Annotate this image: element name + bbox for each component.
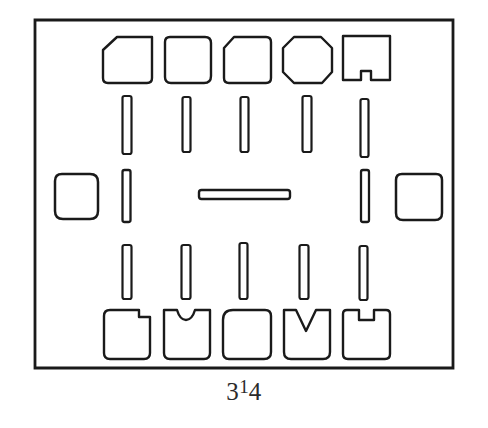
caption-raised-digit: 1: [239, 376, 249, 397]
bar-upper-2: [183, 97, 191, 152]
slab-top-1: [103, 37, 152, 83]
slab-top-2: [165, 37, 211, 83]
bar-mid-center: [199, 190, 290, 199]
slab-top-5: [343, 36, 390, 80]
slab-bottom-3: [223, 310, 271, 359]
bar-upper-1: [123, 96, 132, 154]
slab-mid-left: [55, 174, 98, 219]
middle-row: [55, 170, 442, 222]
bar-lower-4: [300, 245, 309, 299]
lower-bar-row: [123, 243, 368, 300]
bar-lower-1: [123, 245, 132, 299]
figure-plate: 314: [0, 0, 488, 428]
bar-lower-3: [240, 243, 248, 299]
bar-lower-5: [360, 246, 368, 300]
bar-upper-4: [303, 96, 312, 152]
bar-lower-2: [182, 245, 191, 299]
bar-mid-right: [361, 170, 369, 222]
slab-top-3: [224, 37, 271, 83]
caption-main-digits: 3: [226, 378, 239, 405]
bottom-row-slabs: [104, 310, 390, 359]
slab-bottom-1: [104, 310, 150, 359]
slab-top-4: [283, 37, 332, 83]
upper-bar-row: [123, 96, 369, 157]
bar-upper-3: [241, 97, 249, 152]
slab-mid-right: [396, 174, 442, 220]
top-row-slabs: [103, 36, 390, 83]
bar-mid-left: [123, 170, 131, 222]
archaeological-plan-drawing: [0, 0, 488, 428]
bar-upper-5: [361, 99, 369, 157]
slab-bottom-4: [284, 310, 330, 359]
figure-caption: 314: [0, 376, 488, 406]
slab-bottom-2: [164, 310, 210, 359]
slab-bottom-5: [343, 310, 390, 359]
caption-trailing-digits: 4: [249, 378, 262, 405]
